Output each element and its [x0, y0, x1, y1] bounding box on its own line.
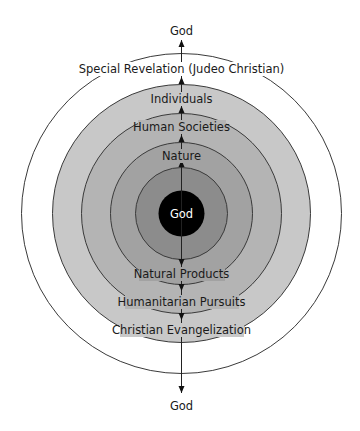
concentric-circles-diagram: God God Special Revelation (Judeo Christ…: [0, 0, 360, 431]
christian-evangelization-label: Christian Evangelization: [112, 323, 251, 337]
center-god-label: God: [170, 207, 193, 221]
human-societies-label: Human Societies: [133, 120, 230, 134]
special-revelation-label: Special Revelation (Judeo Christian): [79, 62, 284, 76]
bottom-god-label: God: [170, 399, 193, 413]
arrow-up-icon: [179, 40, 185, 47]
top-god-label: God: [170, 24, 193, 38]
natural-products-label: Natural Products: [134, 267, 230, 281]
individuals-label: Individuals: [151, 92, 213, 106]
nature-label: Nature: [162, 149, 201, 163]
humanitarian-pursuits-label: Humanitarian Pursuits: [118, 295, 246, 309]
arrow-down-icon: [179, 386, 185, 393]
